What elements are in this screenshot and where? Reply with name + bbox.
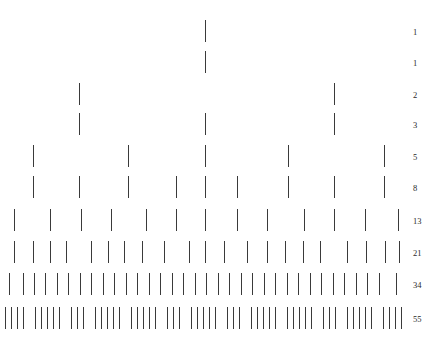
tick-mark bbox=[264, 273, 265, 295]
tick-mark bbox=[91, 273, 92, 295]
tick-mark bbox=[203, 307, 204, 329]
tick-mark bbox=[320, 241, 321, 263]
tick-mark bbox=[247, 241, 248, 263]
tick-mark bbox=[334, 209, 335, 231]
tick-mark bbox=[205, 176, 206, 198]
tick-mark bbox=[267, 241, 268, 263]
tick-mark bbox=[101, 307, 102, 329]
tick-mark bbox=[396, 273, 397, 295]
tick-mark bbox=[401, 307, 402, 329]
tick-mark bbox=[293, 307, 294, 329]
tick-mark bbox=[119, 307, 120, 329]
row-count-label: 2 bbox=[413, 91, 417, 100]
row-count-label: 5 bbox=[413, 153, 417, 162]
tick-mark bbox=[17, 307, 18, 329]
tick-mark bbox=[334, 83, 335, 105]
tick-mark bbox=[298, 273, 299, 295]
tick-row bbox=[0, 113, 434, 137]
tick-mark bbox=[304, 209, 305, 231]
tick-mark bbox=[33, 241, 34, 263]
tick-mark bbox=[114, 273, 115, 295]
tick-mark bbox=[167, 307, 168, 329]
tick-mark bbox=[334, 176, 335, 198]
tick-mark bbox=[131, 307, 132, 329]
tick-mark bbox=[205, 51, 206, 73]
tick-mark bbox=[285, 241, 286, 263]
fibonacci-tick-figure: 11235813213455 bbox=[0, 0, 434, 343]
row-count-label: 8 bbox=[413, 184, 417, 193]
tick-mark bbox=[323, 307, 324, 329]
tick-mark bbox=[155, 307, 156, 329]
row-count-label: 55 bbox=[413, 315, 422, 324]
tick-mark bbox=[205, 20, 206, 42]
tick-mark bbox=[269, 307, 270, 329]
tick-mark bbox=[227, 307, 228, 329]
tick-mark bbox=[239, 307, 240, 329]
tick-mark bbox=[365, 307, 366, 329]
tick-mark bbox=[95, 307, 96, 329]
tick-mark bbox=[237, 176, 238, 198]
tick-mark bbox=[347, 241, 348, 263]
tick-mark bbox=[124, 241, 125, 263]
tick-mark bbox=[14, 209, 15, 231]
tick-mark bbox=[329, 307, 330, 329]
tick-mark bbox=[347, 307, 348, 329]
tick-mark bbox=[359, 307, 360, 329]
tick-mark bbox=[237, 209, 238, 231]
tick-mark bbox=[128, 145, 129, 167]
tick-mark bbox=[103, 273, 104, 295]
tick-mark bbox=[23, 307, 24, 329]
tick-mark bbox=[356, 273, 357, 295]
tick-mark bbox=[399, 241, 400, 263]
tick-mark bbox=[224, 241, 225, 263]
tick-mark bbox=[334, 113, 335, 135]
tick-mark bbox=[366, 241, 367, 263]
tick-mark bbox=[34, 273, 35, 295]
tick-mark bbox=[57, 273, 58, 295]
row-count-label: 3 bbox=[413, 121, 417, 130]
tick-mark bbox=[33, 145, 34, 167]
tick-mark bbox=[288, 176, 289, 198]
tick-mark bbox=[160, 273, 161, 295]
tick-mark bbox=[79, 113, 80, 135]
tick-mark bbox=[371, 307, 372, 329]
tick-mark bbox=[183, 273, 184, 295]
tick-row bbox=[0, 241, 434, 265]
tick-mark bbox=[77, 307, 78, 329]
tick-mark bbox=[126, 273, 127, 295]
tick-row bbox=[0, 176, 434, 200]
tick-row bbox=[0, 209, 434, 233]
tick-mark bbox=[205, 113, 206, 135]
tick-mark bbox=[209, 307, 210, 329]
tick-row bbox=[0, 51, 434, 75]
tick-mark bbox=[395, 307, 396, 329]
tick-mark bbox=[71, 307, 72, 329]
tick-mark bbox=[79, 83, 80, 105]
tick-mark bbox=[389, 307, 390, 329]
tick-mark bbox=[191, 307, 192, 329]
tick-mark bbox=[310, 273, 311, 295]
tick-mark bbox=[11, 307, 12, 329]
tick-mark bbox=[251, 307, 252, 329]
tick-mark bbox=[287, 273, 288, 295]
tick-mark bbox=[267, 209, 268, 231]
tick-mark bbox=[333, 273, 334, 295]
row-count-label: 1 bbox=[413, 28, 417, 37]
tick-mark bbox=[50, 209, 51, 231]
tick-row bbox=[0, 145, 434, 169]
tick-mark bbox=[172, 273, 173, 295]
tick-mark bbox=[111, 209, 112, 231]
tick-mark bbox=[66, 241, 67, 263]
tick-mark bbox=[205, 145, 206, 167]
tick-row bbox=[0, 273, 434, 297]
tick-mark bbox=[5, 307, 6, 329]
tick-mark bbox=[205, 241, 206, 263]
tick-mark bbox=[275, 307, 276, 329]
tick-mark bbox=[206, 273, 207, 295]
tick-mark bbox=[113, 307, 114, 329]
tick-mark bbox=[385, 241, 386, 263]
tick-mark bbox=[353, 307, 354, 329]
tick-mark bbox=[149, 307, 150, 329]
tick-mark bbox=[164, 241, 165, 263]
tick-mark bbox=[241, 273, 242, 295]
